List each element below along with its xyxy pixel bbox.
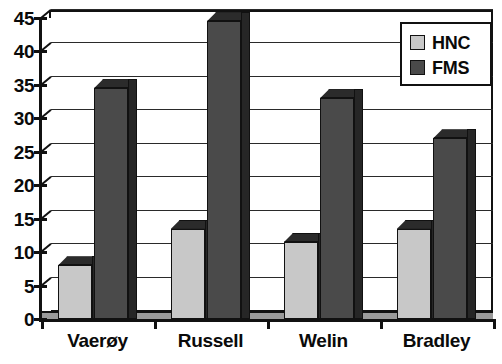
y-axis-tick-label: 0 — [24, 310, 34, 329]
bar-front-face — [207, 21, 241, 319]
y-axis-tickmark — [34, 218, 47, 221]
bar-front-face — [94, 88, 128, 319]
y-axis-tickmark — [34, 184, 47, 187]
x-axis-tickmark — [493, 319, 496, 329]
legend-label-fms: FMS — [432, 59, 469, 77]
y-axis-tickmark — [34, 117, 47, 120]
bar-chart: 454035302520151050 VaerøyRussellWelinBra… — [0, 0, 502, 364]
y-axis-tickmark — [34, 84, 47, 87]
legend-swatch-icon-fms — [410, 60, 425, 75]
chart-legend: HNC FMS — [400, 22, 492, 86]
bar-fms-1 — [207, 12, 250, 319]
bar-side-face — [128, 79, 137, 319]
y-axis-tick-label: 15 — [14, 210, 34, 229]
y-axis-tickmark — [34, 285, 47, 288]
bar-fms-2 — [320, 89, 363, 319]
bar-fms-0 — [94, 79, 137, 319]
bar-front-face — [284, 242, 318, 319]
y-axis-tick-label: 30 — [14, 109, 34, 128]
plot-left-wall — [41, 18, 51, 320]
x-axis-tickmark — [267, 319, 270, 329]
bar-side-face — [467, 129, 476, 319]
y-axis-tickmark — [34, 251, 47, 254]
bar-front-face — [58, 265, 92, 319]
x-axis-tickmark — [380, 319, 383, 329]
legend-entry-fms: FMS — [410, 55, 490, 80]
x-axis-category-label: Welin — [267, 331, 380, 350]
bar-front-face — [320, 98, 354, 319]
legend-swatch-icon-hnc — [410, 35, 425, 50]
bar-front-face — [433, 138, 467, 319]
y-axis-tick-label: 10 — [14, 243, 34, 262]
x-axis-tickmark — [154, 319, 157, 329]
bar-side-face — [354, 89, 363, 319]
y-axis-tick-label: 35 — [14, 76, 34, 95]
bar-fms-3 — [433, 129, 476, 319]
legend-entry-hnc: HNC — [410, 30, 490, 55]
y-axis-tick-label: 40 — [14, 42, 34, 61]
y-axis-tick-label: 25 — [14, 143, 34, 162]
bar-front-face — [397, 229, 431, 319]
x-axis-category-label: Bradley — [380, 331, 493, 350]
y-axis-tick-label: 45 — [14, 9, 34, 28]
legend-label-hnc: HNC — [432, 34, 470, 52]
bar-side-face — [241, 12, 250, 319]
y-axis-tick-label: 20 — [14, 176, 34, 195]
x-axis-category-label: Vaerøy — [41, 331, 154, 350]
y-axis-tickmark — [34, 50, 47, 53]
x-axis-category-label: Russell — [154, 331, 267, 350]
bar-front-face — [171, 229, 205, 319]
x-axis-tickmark — [41, 319, 44, 329]
y-axis-tick-label: 5 — [24, 277, 34, 296]
y-axis-tickmark — [34, 17, 47, 20]
gridline — [51, 9, 493, 10]
y-axis-line — [39, 18, 42, 320]
y-axis-tickmark — [34, 151, 47, 154]
y-axis-tick-labels: 454035302520151050 — [0, 0, 34, 364]
